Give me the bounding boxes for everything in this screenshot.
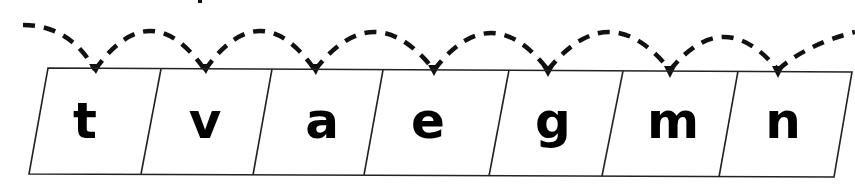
letter-box-1: t [73, 92, 97, 150]
arrowhead-icon [542, 66, 554, 77]
hop-arcs [23, 25, 855, 70]
box-divider [141, 69, 161, 174]
box-divider [719, 71, 738, 177]
box-divider [602, 71, 623, 176]
box-divider [253, 69, 272, 175]
letter-box-2: v [189, 92, 222, 150]
hop-arc-1 [95, 31, 205, 70]
hop-arc-lead-out [778, 32, 855, 70]
letters: t v a e g m n [73, 92, 801, 150]
arrowhead-icon [664, 66, 676, 78]
letter-hop-diagram: t v a e g m n [0, 0, 855, 185]
letter-box-3: a [305, 92, 339, 150]
hop-arc-3 [315, 32, 434, 70]
box-divider [489, 70, 509, 176]
hop-arc-6 [670, 37, 778, 70]
box-divider [364, 70, 383, 175]
letter-box-6: m [647, 92, 699, 150]
top-tick-mark [198, 0, 202, 3]
hop-arc-2 [205, 31, 315, 70]
hop-arc-5 [548, 32, 670, 70]
diagram-canvas: t v a e g m n [0, 0, 855, 185]
letter-box-7: n [765, 92, 801, 150]
letter-box-5: g [535, 92, 571, 150]
letter-box-4: e [411, 92, 445, 150]
hop-arc-lead-in [23, 25, 95, 70]
hop-arc-4 [434, 33, 548, 70]
